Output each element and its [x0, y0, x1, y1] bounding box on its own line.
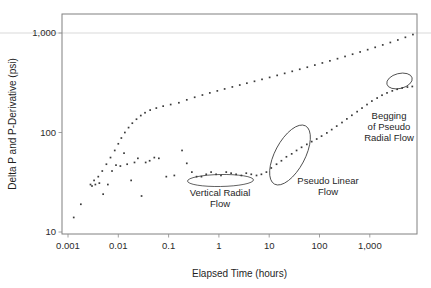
data-point	[341, 122, 343, 124]
x-tick-label: 100	[312, 240, 328, 251]
data-point	[224, 88, 226, 90]
data-point	[276, 75, 278, 77]
annotation-label-begging-of-pseudo-radial-flow: Radial Flow	[364, 132, 414, 143]
pressure-transient-loglog-chart: 0.0010.010.11101001,000 101001,000 Verti…	[0, 0, 431, 288]
data-point	[261, 79, 263, 81]
chart-container: 0.0010.010.11101001,000 101001,000 Verti…	[0, 0, 431, 288]
data-point	[261, 173, 263, 175]
data-point	[230, 172, 232, 174]
data-point	[256, 175, 258, 177]
data-point	[153, 157, 155, 159]
data-point	[276, 163, 278, 165]
data-point	[117, 143, 119, 145]
data-point	[299, 68, 301, 70]
data-point	[137, 157, 139, 159]
data-point	[97, 176, 99, 178]
data-point	[178, 102, 180, 104]
data-point	[123, 152, 125, 154]
data-point	[412, 34, 414, 36]
data-point	[162, 105, 164, 107]
data-point	[155, 107, 157, 109]
data-point	[371, 100, 373, 102]
data-point	[281, 160, 283, 162]
data-point	[165, 176, 167, 178]
data-point	[210, 171, 212, 173]
x-axis-title: Elapsed Time (hours)	[192, 268, 287, 279]
data-point	[126, 163, 128, 165]
data-point	[107, 184, 109, 186]
data-point	[246, 82, 248, 84]
data-point	[329, 60, 331, 62]
data-point	[306, 144, 308, 146]
data-point	[93, 180, 95, 182]
data-point	[225, 171, 227, 173]
data-point	[269, 77, 271, 79]
data-point	[216, 90, 218, 92]
data-point	[124, 132, 126, 134]
data-point	[120, 165, 122, 167]
data-point	[239, 84, 241, 86]
data-point	[411, 86, 413, 88]
data-point	[367, 49, 369, 51]
x-tick-label: 0.01	[109, 240, 128, 251]
data-point	[90, 184, 92, 186]
x-tick-label: 1	[216, 240, 221, 251]
data-point	[209, 92, 211, 94]
data-point	[95, 184, 97, 186]
data-point	[374, 46, 376, 48]
annotation-label-begging-of-pseudo-radial-flow: of Pseudo	[368, 121, 411, 132]
data-point	[266, 171, 268, 173]
data-point	[337, 58, 339, 60]
data-point	[73, 217, 75, 219]
y-tick-label: 10	[45, 226, 56, 237]
data-point	[149, 160, 151, 162]
data-point	[194, 96, 196, 98]
data-point	[405, 36, 407, 38]
data-point	[111, 170, 113, 172]
data-point	[397, 39, 399, 41]
data-point	[131, 122, 133, 124]
data-point	[381, 94, 383, 96]
data-point	[99, 182, 101, 184]
data-point	[128, 127, 130, 129]
data-point	[321, 135, 323, 137]
data-point	[186, 99, 188, 101]
annotation-label-vertical-radial-flow: Flow	[210, 198, 230, 209]
x-tick-label: 0.1	[162, 240, 175, 251]
data-point	[145, 162, 147, 164]
data-point	[336, 125, 338, 127]
x-tick-label: 1,000	[358, 240, 382, 251]
y-tick-label: 100	[40, 127, 56, 138]
data-point	[114, 150, 116, 152]
data-point	[191, 171, 193, 173]
data-point	[202, 94, 204, 96]
annotation-label-pseudo-linear-flow: Pseudo Linear	[297, 175, 358, 186]
data-point	[361, 107, 363, 109]
data-point	[311, 141, 313, 143]
data-point	[391, 90, 393, 92]
data-point	[101, 170, 103, 172]
data-point	[140, 115, 142, 117]
data-point	[110, 157, 112, 159]
data-point	[286, 156, 288, 158]
data-point	[173, 175, 175, 177]
data-point	[158, 157, 160, 159]
annotation-label-begging-of-pseudo-radial-flow: Begging	[372, 110, 407, 121]
data-point	[270, 167, 272, 169]
data-point	[102, 193, 104, 195]
data-point	[130, 180, 132, 182]
data-point	[181, 150, 183, 152]
data-point	[306, 66, 308, 68]
data-point	[291, 153, 293, 155]
data-point	[326, 132, 328, 134]
x-tick-label: 10	[264, 240, 275, 251]
data-point	[254, 80, 256, 82]
data-point	[344, 56, 346, 58]
data-point	[80, 203, 82, 205]
data-point	[351, 114, 353, 116]
data-point	[296, 150, 298, 152]
data-point	[366, 104, 368, 106]
data-point	[316, 138, 318, 140]
data-point	[352, 53, 354, 55]
data-point	[91, 185, 93, 187]
